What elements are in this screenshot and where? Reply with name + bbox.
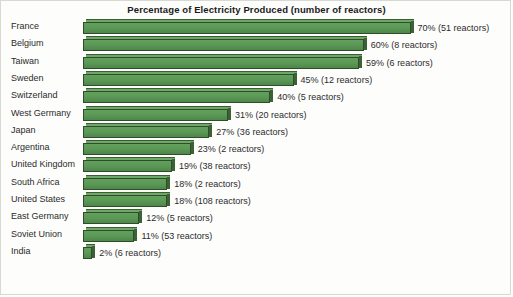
bar-value-label: 70% (51 reactors) xyxy=(418,22,490,34)
bar-argentina xyxy=(83,140,194,155)
bar-front-face xyxy=(83,126,209,138)
chart-bar-row: United Kingdom19% (38 reactors) xyxy=(1,157,511,174)
bar-value-label: 18% (108 reactors) xyxy=(174,195,251,207)
chart-bar-row: Switzerland40% (5 reactors) xyxy=(1,88,511,105)
category-label: Switzerland xyxy=(11,89,58,101)
chart-bar-row: West Germany31% (20 reactors) xyxy=(1,106,511,123)
chart-bar-row: France70% (51 reactors) xyxy=(1,19,511,36)
bar-front-face xyxy=(83,57,359,69)
bar-side-face xyxy=(92,246,95,258)
bar-sweden xyxy=(83,71,297,86)
category-label: France xyxy=(11,20,39,32)
chart-title: Percentage of Electricity Produced (numb… xyxy=(1,4,511,15)
category-label: Soviet Union xyxy=(11,228,62,240)
bar-value-label: 12% (5 reactors) xyxy=(146,212,213,224)
bar-front-face xyxy=(83,143,191,155)
chart-bar-row: Sweden45% (12 reactors) xyxy=(1,71,511,88)
bar-value-label: 45% (12 reactors) xyxy=(301,74,373,86)
category-label: South Africa xyxy=(11,176,60,188)
category-label: Sweden xyxy=(11,72,44,84)
chart-bar-row: Belgium60% (8 reactors) xyxy=(1,36,511,53)
bar-front-face xyxy=(83,178,167,190)
chart-bar-row: Japan27% (36 reactors) xyxy=(1,123,511,140)
category-label: India xyxy=(11,245,31,257)
bar-side-face xyxy=(191,142,194,154)
bar-belgium xyxy=(83,36,367,51)
bar-value-label: 18% (2 reactors) xyxy=(174,178,241,190)
category-label: United Kingdom xyxy=(11,158,75,170)
category-label: West Germany xyxy=(11,107,71,119)
bar-front-face xyxy=(83,160,172,172)
chart-bar-row: Soviet Union11% (53 reactors) xyxy=(1,227,511,244)
category-label: East Germany xyxy=(11,210,69,222)
bar-east-germany xyxy=(83,209,142,224)
category-label: Argentina xyxy=(11,141,50,153)
bar-india xyxy=(83,244,95,259)
bar-value-label: 11% (53 reactors) xyxy=(141,230,212,242)
bar-front-face xyxy=(83,230,134,242)
bar-side-face xyxy=(139,211,142,223)
bar-front-face xyxy=(83,109,228,121)
bar-side-face xyxy=(228,108,231,120)
bar-front-face xyxy=(83,195,167,207)
chart-bar-row: India2% (6 reactors) xyxy=(1,244,511,261)
bar-front-face xyxy=(83,247,92,259)
bar-japan xyxy=(83,123,212,138)
bar-value-label: 59% (6 reactors) xyxy=(366,57,433,69)
bar-front-face xyxy=(83,212,139,224)
bar-value-label: 2% (6 reactors) xyxy=(99,247,161,259)
bar-front-face xyxy=(83,39,364,51)
chart-plot-area: France70% (51 reactors)Belgium60% (8 rea… xyxy=(1,19,511,294)
bar-value-label: 27% (36 reactors) xyxy=(216,126,288,138)
category-label: United States xyxy=(11,193,65,205)
bar-value-label: 31% (20 reactors) xyxy=(235,109,307,121)
bar-side-face xyxy=(209,125,212,137)
bar-switzerland xyxy=(83,88,273,103)
bar-side-face xyxy=(172,159,175,171)
bar-south-africa xyxy=(83,175,170,190)
bar-side-face xyxy=(294,73,297,85)
category-label: Taiwan xyxy=(11,55,39,67)
bar-side-face xyxy=(167,177,170,189)
bar-value-label: 23% (2 reactors) xyxy=(198,143,265,155)
bar-united-states xyxy=(83,192,170,207)
category-label: Japan xyxy=(11,124,36,136)
bar-soviet-union xyxy=(83,227,137,242)
bar-side-face xyxy=(364,38,367,50)
bar-front-face xyxy=(83,74,294,86)
bar-side-face xyxy=(134,229,137,241)
bar-france xyxy=(83,19,414,34)
chart-bar-row: South Africa18% (2 reactors) xyxy=(1,175,511,192)
bar-taiwan xyxy=(83,54,362,69)
bar-value-label: 60% (8 reactors) xyxy=(371,39,438,51)
bar-united-kingdom xyxy=(83,157,175,172)
category-label: Belgium xyxy=(11,37,44,49)
bar-value-label: 19% (38 reactors) xyxy=(179,160,251,172)
bar-front-face xyxy=(83,91,270,103)
bar-value-label: 40% (5 reactors) xyxy=(277,91,344,103)
chart-bar-row: East Germany12% (5 reactors) xyxy=(1,209,511,226)
bar-side-face xyxy=(270,90,273,102)
chart-bar-row: Taiwan59% (6 reactors) xyxy=(1,54,511,71)
bar-west-germany xyxy=(83,106,231,121)
bar-side-face xyxy=(359,56,362,68)
bar-side-face xyxy=(411,21,414,33)
chart-frame: Percentage of Electricity Produced (numb… xyxy=(0,0,511,295)
bar-side-face xyxy=(167,194,170,206)
chart-bar-row: Argentina23% (2 reactors) xyxy=(1,140,511,157)
chart-bar-row: United States18% (108 reactors) xyxy=(1,192,511,209)
bar-front-face xyxy=(83,22,411,34)
